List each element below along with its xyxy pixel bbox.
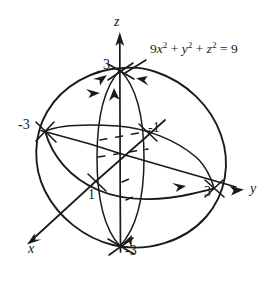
z-axis-label: z [114, 15, 119, 29]
tick-label-z-negative: -3 [125, 244, 137, 258]
x-axis-label: x [28, 242, 34, 256]
tick-label-z-positive: 3 [103, 58, 110, 72]
equation-exp-y: 2 [188, 40, 193, 50]
surface-equation: 9x2 + y2 + z2 = 9 [150, 42, 238, 56]
equation-equals: = [220, 41, 228, 56]
tick-label-x-negative: -1 [148, 121, 160, 135]
y-axis-label: y [250, 182, 256, 196]
tick-label-y-negative: -3 [18, 118, 30, 132]
tick-label-x-positive: 1 [88, 188, 95, 202]
equation-coef-x: 9 [150, 41, 157, 56]
xy-trace-ellipse [45, 125, 214, 199]
equation-plus-2: + [196, 41, 204, 56]
equation-rhs: 9 [231, 41, 238, 56]
equation-exp-z: 2 [212, 40, 217, 50]
tick-label-y-positive: 3 [204, 185, 211, 199]
equation-exp-x: 2 [163, 40, 168, 50]
equation-plus-1: + [171, 41, 179, 56]
z-axis [115, 32, 124, 252]
y-axis-arrowhead [230, 186, 245, 196]
ellipsoid-figure: z y x 3 -3 3 -3 1 -1 9x2 + y2 + z2 = 9 [0, 0, 273, 289]
